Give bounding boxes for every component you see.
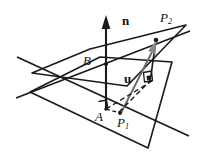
label-point-b: B	[83, 54, 91, 67]
label-p2-subscript: 2	[168, 17, 172, 26]
label-p1-subscript: 1	[125, 122, 129, 131]
upper-plane-outline	[32, 25, 186, 86]
label-point-p1: P1	[117, 116, 129, 131]
label-p2-base: P	[160, 10, 168, 25]
point-p2-marker	[154, 38, 159, 43]
label-p1-base: P	[117, 115, 125, 130]
u-vector-head	[148, 41, 156, 54]
point-b-marker	[104, 62, 108, 66]
dashed-a-to-p1	[106, 109, 120, 113]
right-angle-square-p2-fill	[147, 75, 152, 80]
upper-plane	[32, 25, 186, 86]
label-vector-u: u	[124, 72, 131, 85]
figure-canvas: n P2 B u A P1	[0, 0, 198, 163]
plane-trace-line-upper	[16, 31, 190, 98]
label-point-a: A	[95, 110, 103, 123]
normal-vector-head	[102, 15, 111, 29]
label-normal-vector: n	[122, 14, 129, 27]
label-point-p2: P2	[160, 11, 172, 26]
